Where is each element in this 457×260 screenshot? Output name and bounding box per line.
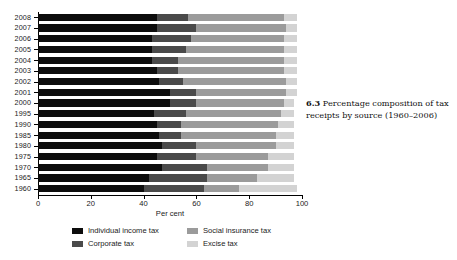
bar-segment xyxy=(276,142,294,149)
bar-segment xyxy=(162,142,196,149)
bar-row xyxy=(38,89,297,96)
y-tick-mark xyxy=(34,167,38,168)
x-tick-label: 40 xyxy=(139,199,147,208)
bar-segment xyxy=(191,35,283,42)
bar-segment xyxy=(159,132,180,139)
y-tick-mark xyxy=(34,82,38,83)
bar-segment xyxy=(38,24,157,31)
bar-segment xyxy=(157,67,178,74)
y-tick-label: 1965 xyxy=(15,174,31,181)
y-tick-label: 2003 xyxy=(15,67,31,74)
bar-segment xyxy=(239,185,297,192)
bar-segment xyxy=(268,153,294,160)
bar-segment xyxy=(38,57,152,64)
bar-segment xyxy=(276,132,294,139)
bar-segment xyxy=(157,121,181,128)
bar-row xyxy=(38,132,294,139)
bar-segment xyxy=(284,35,297,42)
bar-row xyxy=(38,67,297,74)
bar-segment xyxy=(204,185,238,192)
y-tick-mark xyxy=(34,39,38,40)
bar-segment xyxy=(186,46,284,53)
bar-segment xyxy=(38,142,162,149)
bar-segment xyxy=(178,57,284,64)
bar-segment xyxy=(162,164,207,171)
bar-segment xyxy=(152,57,178,64)
bar-segment xyxy=(207,164,268,171)
legend-item: Corporate tax xyxy=(72,240,134,248)
y-tick-mark xyxy=(34,71,38,72)
bar-segment xyxy=(152,35,192,42)
bar-segment xyxy=(196,89,286,96)
bar-segment xyxy=(196,24,286,31)
y-tick-mark xyxy=(34,28,38,29)
y-tick-mark xyxy=(34,60,38,61)
legend-swatch-icon xyxy=(72,228,83,234)
x-axis-line xyxy=(38,195,303,196)
bar-segment xyxy=(38,14,157,21)
y-tick-label: 1995 xyxy=(15,110,31,117)
legend-item: Excise tax xyxy=(187,240,238,248)
x-tick-label: 0 xyxy=(36,199,40,208)
y-tick-mark xyxy=(34,49,38,50)
legend-label: Excise tax xyxy=(203,240,238,248)
bar-segment xyxy=(38,78,159,85)
y-tick-mark xyxy=(34,178,38,179)
bar-segment xyxy=(157,14,189,21)
bar-row xyxy=(38,121,294,128)
y-axis-labels: 2008200720062005200420032002200120001995… xyxy=(0,12,33,194)
bar-segment xyxy=(152,46,186,53)
y-tick-label: 2006 xyxy=(15,35,31,42)
bar-segment xyxy=(38,185,144,192)
y-tick-label: 2005 xyxy=(15,46,31,53)
y-tick-mark xyxy=(34,17,38,18)
bar-segment xyxy=(284,99,295,106)
bar-row xyxy=(38,153,294,160)
bar-segment xyxy=(196,142,275,149)
bar-segment xyxy=(257,174,294,181)
bar-segment xyxy=(159,78,183,85)
y-tick-mark xyxy=(34,114,38,115)
y-tick-label: 1985 xyxy=(15,132,31,139)
bar-segment xyxy=(38,46,152,53)
y-tick-label: 2000 xyxy=(15,99,31,106)
bar-segment xyxy=(278,121,294,128)
bar-segment xyxy=(181,121,279,128)
y-tick-label: 1960 xyxy=(15,185,31,192)
bar-segment xyxy=(149,174,207,181)
bar-segment xyxy=(188,14,283,21)
x-tick-label: 100 xyxy=(296,199,309,208)
bar-segment xyxy=(144,185,205,192)
chart-plot-area: 2008200720062005200420032002200120001995… xyxy=(0,0,320,215)
legend-label: Social insurance tax xyxy=(203,227,271,235)
bar-segment xyxy=(38,110,154,117)
legend-swatch-icon xyxy=(187,241,198,247)
bar-segment xyxy=(284,67,297,74)
y-tick-mark xyxy=(34,103,38,104)
y-tick-mark xyxy=(34,92,38,93)
bar-segment xyxy=(286,24,297,31)
bar-segment xyxy=(38,121,157,128)
x-tick-mark xyxy=(249,195,250,199)
bar-row xyxy=(38,185,297,192)
x-tick-mark xyxy=(38,195,39,199)
bar-segment xyxy=(38,67,157,74)
bar-row xyxy=(38,164,294,171)
y-tick-label: 1990 xyxy=(15,121,31,128)
y-tick-mark xyxy=(34,189,38,190)
bar-row xyxy=(38,142,294,149)
bar-segment xyxy=(284,57,297,64)
bar-segment xyxy=(196,153,267,160)
bar-segment xyxy=(284,46,297,53)
legend-item: Social insurance tax xyxy=(187,227,271,235)
y-tick-label: 2007 xyxy=(15,24,31,31)
x-tick-label: 60 xyxy=(192,199,200,208)
legend-swatch-icon xyxy=(187,228,198,234)
bar-row xyxy=(38,35,297,42)
bar-row xyxy=(38,99,294,106)
chart-legend: Individual income taxCorporate taxSocial… xyxy=(72,227,317,253)
x-axis-title: Per cent xyxy=(156,209,184,218)
figure-container: 2008200720062005200420032002200120001995… xyxy=(0,0,457,260)
bar-segment xyxy=(268,164,294,171)
legend-item: Individual income tax xyxy=(72,227,159,235)
